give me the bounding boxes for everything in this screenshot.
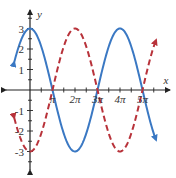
x-tick-label: 5π [137, 93, 149, 105]
cosine-graph: π2π3π4π5π321-1-2-3xy [0, 0, 176, 178]
y-tick-label: 3 [19, 23, 25, 35]
x-tick-label: 4π [114, 93, 126, 105]
x-axis-label: x [163, 74, 169, 86]
y-tick-label: -2 [15, 125, 24, 137]
y-tick-label: 1 [19, 64, 25, 76]
x-tick-label: 2π [69, 93, 81, 105]
y-tick-label: -3 [15, 146, 25, 158]
y-tick-label: -1 [15, 105, 24, 117]
axis-labels: π2π3π4π5π321-1-2-3xy [15, 8, 169, 158]
y-tick-label: 2 [19, 43, 25, 55]
x-tick-label: 3π [91, 93, 104, 105]
y-axis-label: y [36, 8, 42, 20]
x-tick-label: π [50, 93, 56, 105]
axes [6, 10, 170, 170]
